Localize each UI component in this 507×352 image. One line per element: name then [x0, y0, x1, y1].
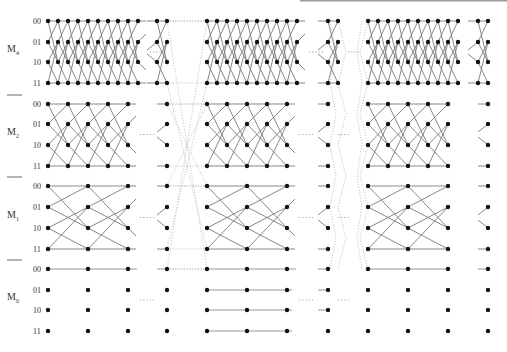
trellis-node: [386, 164, 390, 168]
trellis-node: [406, 288, 410, 292]
edge: [448, 62, 458, 83]
trellis-node: [486, 184, 490, 188]
edge: [378, 62, 388, 83]
edge: [108, 62, 118, 83]
trellis-node: [126, 164, 130, 168]
edge: [478, 21, 488, 42]
edge: [418, 62, 428, 83]
trellis-node: [165, 205, 169, 209]
trellis-node: [285, 81, 289, 85]
trellis-node: [376, 19, 380, 23]
edge: [267, 124, 287, 166]
trellis-node: [336, 81, 340, 85]
trellis-node: [265, 143, 269, 147]
trellis-node: [46, 122, 50, 126]
trellis-node: [446, 205, 450, 209]
trellis-node: [86, 122, 90, 126]
trellis-node: [436, 60, 440, 64]
edge: [408, 104, 428, 124]
trellis-node: [366, 288, 370, 292]
trellis-node: [486, 40, 490, 44]
trellis-node: [245, 60, 249, 64]
edge: [108, 124, 128, 166]
trellis-node: [66, 19, 70, 23]
trellis-node: [126, 308, 130, 312]
trellis-node: [446, 81, 450, 85]
trellis-node: [86, 40, 90, 44]
trellis-node: [486, 205, 490, 209]
trellis-node: [446, 329, 450, 333]
trellis-node: [366, 81, 370, 85]
edge: [247, 21, 257, 42]
edge: [108, 104, 128, 145]
mode-label: M: [7, 43, 16, 54]
mode-switch-link: [330, 21, 336, 269]
trellis-node: [136, 19, 140, 23]
edge: [328, 21, 338, 42]
trellis-node: [235, 81, 239, 85]
edge: [388, 145, 408, 166]
edge: [368, 62, 378, 83]
edge: [227, 104, 247, 124]
trellis-node: [406, 164, 410, 168]
trellis-node: [56, 19, 60, 23]
trellis-node: [126, 329, 130, 333]
trellis-node: [285, 205, 289, 209]
trellis-node: [406, 308, 410, 312]
trellis-node: [126, 267, 130, 271]
trellis-node: [245, 226, 249, 230]
edge: [88, 104, 108, 124]
trellis-node: [406, 122, 410, 126]
trellis-node: [165, 288, 169, 292]
trellis-node: [476, 40, 480, 44]
edge: [128, 21, 138, 42]
trellis-node: [225, 19, 229, 23]
trellis-node: [275, 40, 279, 44]
edge: [257, 21, 267, 42]
trellis-node: [456, 40, 460, 44]
edge: [48, 124, 68, 166]
edge: [48, 62, 58, 83]
trellis-node: [126, 143, 130, 147]
trellis-node: [245, 184, 249, 188]
trellis-node: [126, 81, 130, 85]
edge: [247, 104, 267, 145]
trellis-node: [486, 288, 490, 292]
trellis-node: [86, 143, 90, 147]
edge: [157, 21, 167, 42]
state-label: 01: [33, 120, 41, 129]
edge: [428, 104, 448, 145]
trellis-node: [366, 184, 370, 188]
mode-subscript: 2: [16, 133, 19, 139]
trellis-node: [165, 164, 169, 168]
trellis-node: [255, 19, 259, 23]
trellis-node: [456, 81, 460, 85]
trellis-node: [366, 122, 370, 126]
trellis-node: [66, 81, 70, 85]
trellis-node: [235, 40, 239, 44]
trellis-node: [376, 40, 380, 44]
trellis-node: [426, 164, 430, 168]
trellis-node: [46, 288, 50, 292]
state-label: 10: [33, 306, 41, 315]
trellis-node: [165, 143, 169, 147]
edge: [388, 104, 408, 124]
edge: [88, 104, 108, 145]
trellis-node: [406, 247, 410, 251]
trellis-node: [106, 122, 110, 126]
trellis-node: [225, 81, 229, 85]
edge: [118, 21, 128, 42]
trellis-node: [366, 143, 370, 147]
edge: [88, 145, 108, 166]
trellis-node: [446, 143, 450, 147]
trellis-node: [285, 247, 289, 251]
trellis-node: [255, 40, 259, 44]
trellis-node: [326, 19, 330, 23]
trellis-node: [476, 81, 480, 85]
trellis-node: [486, 267, 490, 271]
trellis-node: [285, 102, 289, 106]
trellis-node: [86, 267, 90, 271]
edge: [217, 62, 227, 83]
trellis-node: [326, 308, 330, 312]
trellis-node: [86, 288, 90, 292]
